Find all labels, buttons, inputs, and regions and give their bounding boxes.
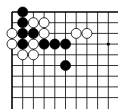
white-stone[interactable]: [28, 50, 38, 60]
white-stone[interactable]: [18, 50, 28, 60]
white-stone[interactable]: [39, 18, 49, 28]
black-stone[interactable]: [18, 28, 28, 38]
black-stone[interactable]: [39, 39, 49, 49]
black-stone[interactable]: [60, 39, 70, 49]
black-stone[interactable]: [18, 39, 28, 49]
white-stone[interactable]: [82, 28, 92, 38]
white-stone[interactable]: [39, 28, 49, 38]
white-stone[interactable]: [7, 39, 17, 49]
white-stone[interactable]: [7, 28, 17, 38]
black-stone[interactable]: [18, 7, 28, 17]
black-stone[interactable]: [50, 39, 60, 49]
white-stone[interactable]: [28, 18, 38, 28]
go-board[interactable]: [0, 0, 118, 109]
star-point: [107, 43, 110, 46]
white-stone[interactable]: [28, 39, 38, 49]
black-stone[interactable]: [18, 18, 28, 28]
black-stone[interactable]: [60, 60, 70, 70]
white-stone[interactable]: [71, 28, 81, 38]
black-stone[interactable]: [28, 28, 38, 38]
